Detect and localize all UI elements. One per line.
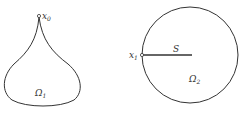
label-s: S [173, 44, 179, 54]
label-x1: x1 [129, 50, 138, 61]
diagram-canvas: x0 Ω1 x1 S Ω2 [0, 0, 243, 113]
label-omega2: Ω2 [188, 74, 200, 85]
label-x0: x0 [42, 11, 51, 22]
point-x1-marker [140, 53, 143, 56]
label-omega1: Ω1 [34, 88, 46, 99]
diagram-svg: x0 Ω1 x1 S Ω2 [0, 0, 243, 113]
point-x0-marker [37, 14, 40, 17]
